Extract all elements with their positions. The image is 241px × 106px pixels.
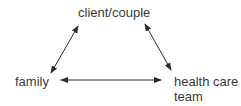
arrows-layer (0, 0, 241, 106)
edge-client-healthcare (145, 24, 171, 70)
edge-client-family (51, 26, 78, 73)
